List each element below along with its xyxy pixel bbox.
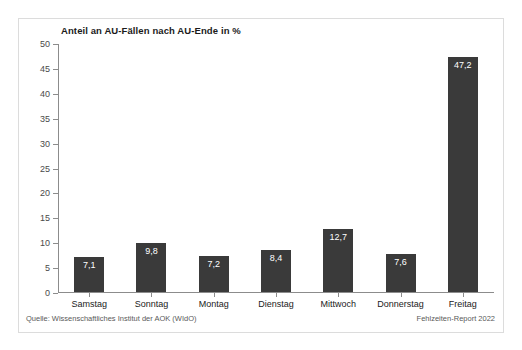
x-axis-tick [89,293,90,297]
y-axis-tick [53,169,58,170]
figure-footer: Quelle: Wissenschaftliches Institut der … [19,314,503,326]
y-axis-tick-label: 30 [40,139,50,149]
y-axis-tick-label: 50 [40,39,50,49]
bar-value-label: 7,6 [386,257,416,267]
x-axis-tick [338,293,339,297]
y-axis-tick-label: 45 [40,64,50,74]
y-axis-tick [53,69,58,70]
y-axis-tick [53,119,58,120]
bar: 8,4 [261,250,291,292]
y-axis-tick [53,268,58,269]
bar-value-label: 47,2 [448,60,478,70]
y-axis-tick [53,94,58,95]
x-axis-tick [276,293,277,297]
y-axis-tick-label: 25 [40,164,50,174]
bar-value-label: 7,2 [199,259,229,269]
bar: 12,7 [323,229,353,292]
x-axis-tick [151,293,152,297]
bar: 47,2 [448,57,478,292]
x-axis-label: Freitag [415,299,511,309]
bar-chart-plot-area: 05101520253035404550 7,19,87,28,412,77,6… [58,44,494,293]
y-axis-tick [53,144,58,145]
bar-value-label: 9,8 [136,246,166,256]
y-axis-tick [53,193,58,194]
bar-value-label: 8,4 [261,253,291,263]
y-axis-tick [53,44,58,45]
chart-title: Anteil an AU-Fällen nach AU-Ende in % [61,25,241,36]
y-axis-tick-label: 15 [40,213,50,223]
x-axis-tick [463,293,464,297]
y-axis-tick-label: 20 [40,188,50,198]
bar: 9,8 [136,243,166,292]
y-axis-tick-label: 40 [40,89,50,99]
x-axis-tick [214,293,215,297]
figure-card: Anteil an AU-Fällen nach AU-Ende in % 05… [18,18,504,333]
y-axis-tick [53,243,58,244]
y-axis-tick [53,293,58,294]
report-note: Fehlzeiten-Report 2022 [417,314,495,323]
bar: 7,6 [386,254,416,292]
source-note: Quelle: Wissenschaftliches Institut der … [26,314,196,323]
x-axis-tick [401,293,402,297]
y-axis-tick-label: 10 [40,238,50,248]
y-axis-tick-label: 0 [45,288,50,298]
bar: 7,1 [74,257,104,292]
bar-value-label: 7,1 [74,260,104,270]
y-axis-tick-label: 35 [40,114,50,124]
y-axis-tick-label: 5 [45,263,50,273]
y-axis-line [58,44,59,293]
y-axis-tick [53,218,58,219]
bar: 7,2 [199,256,229,292]
bar-value-label: 12,7 [323,232,353,242]
